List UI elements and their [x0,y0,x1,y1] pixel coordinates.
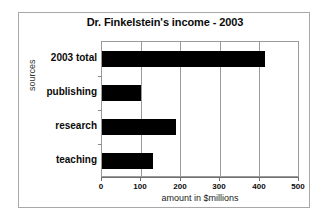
chart-title: Dr. Finkelstein's income - 2003 [19,16,311,28]
x-axis-tick [101,177,102,181]
y-axis-tick-label: teaching [17,154,97,165]
x-axis-line [101,177,299,178]
x-axis-tick-label: 200 [173,182,186,191]
x-axis-tick-label: 100 [133,182,146,191]
bar-2003-total [102,51,265,67]
bar-research [102,119,176,135]
y-axis-category-labels: 2003 total publishing research teaching [19,41,97,177]
bar-teaching [102,153,153,169]
x-axis-tick-label: 400 [252,182,265,191]
y-axis-tick-label: research [17,120,97,131]
bar-row [102,76,298,110]
x-axis-tick-label: 300 [212,182,225,191]
bar-row [102,42,298,76]
plot-area [101,41,299,177]
x-axis-tick [219,177,220,181]
y-axis-tick-label: publishing [17,86,97,97]
x-axis-tick-label: 500 [291,182,304,191]
y-axis-tick-label: 2003 total [17,52,97,63]
x-axis-tick-label: 0 [99,182,103,191]
x-axis-tick [180,177,181,181]
chart-figure: Dr. Finkelstein's income - 2003 sources … [18,12,310,208]
bar-row [102,110,298,144]
x-axis-tick [298,177,299,181]
bar-row [102,144,298,178]
x-axis-tick [140,177,141,181]
x-axis-tick [259,177,260,181]
x-axis-title: amount in $millions [101,193,299,203]
bar-publishing [102,85,141,101]
